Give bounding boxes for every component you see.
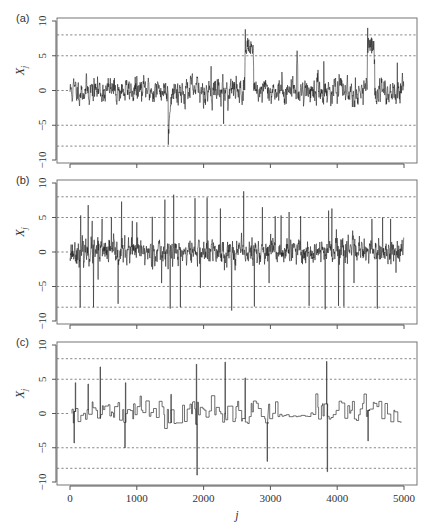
y-tick-label: 5 (36, 53, 48, 59)
x-tick-label: 1000 (126, 492, 149, 504)
y-axis-label-b: Xj (13, 226, 29, 237)
y-tick-label: 5 (36, 376, 48, 382)
panel-label-c: (c) (16, 336, 29, 348)
x-axis-label: j (233, 508, 239, 522)
plot-frame-c (57, 342, 417, 485)
y-tick-label: −10 (36, 312, 48, 330)
y-tick-label: −5 (36, 441, 48, 453)
grid-lines-c (57, 359, 417, 469)
series-line-a (70, 28, 404, 145)
y-axis-label-c: Xj (13, 388, 29, 399)
y-axis-c: 1050−5−10 (36, 339, 56, 491)
y-tick-label: −10 (36, 473, 48, 491)
x-tick-label: 3000 (259, 492, 282, 504)
y-tick-label: −5 (36, 280, 48, 292)
panel-label-b: (b) (16, 174, 29, 186)
y-tick-label: 10 (36, 15, 48, 27)
x-axis-a (70, 164, 404, 168)
x-tick-label: 4000 (326, 492, 349, 504)
panel-c: (c) 1050−5−10 010002000300040005000 Xj j (13, 336, 417, 522)
y-axis-label-a: Xj (13, 65, 29, 76)
panel-label-a: (a) (16, 12, 29, 24)
x-tick-label: 2000 (193, 492, 216, 504)
figure: (a) 1050−5−10 Xj (b) 1050−5−10 Xj (c) 10… (0, 0, 434, 530)
panel-b: (b) 1050−5−10 Xj (13, 174, 417, 330)
y-tick-label: 0 (36, 249, 48, 255)
series-line-c (72, 361, 402, 475)
y-tick-label: 5 (36, 214, 48, 220)
series-line-b (70, 191, 404, 310)
y-tick-label: −5 (36, 119, 48, 131)
y-tick-label: 10 (36, 177, 48, 189)
y-tick-label: −10 (36, 151, 48, 169)
x-axis-b (70, 325, 404, 329)
y-tick-label: 0 (36, 410, 48, 416)
y-axis-b: 1050−5−10 (36, 177, 56, 330)
panel-a: (a) 1050−5−10 Xj (13, 12, 417, 169)
x-tick-label: 0 (67, 492, 73, 504)
x-tick-label: 5000 (393, 492, 416, 504)
y-axis-a: 1050−5−10 (36, 15, 56, 169)
y-tick-label: 10 (36, 339, 48, 351)
x-axis-c: 010002000300040005000 (67, 486, 415, 504)
y-tick-label: 0 (36, 87, 48, 93)
